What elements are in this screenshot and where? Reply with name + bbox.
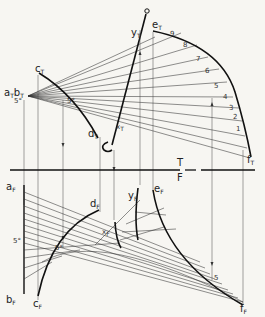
svg-text:1: 1 <box>236 125 240 133</box>
mark-5-front: 5 <box>214 274 218 282</box>
curve-ef-front <box>153 190 243 305</box>
label-f-front: fF <box>240 303 248 315</box>
svg-text:6: 6 <box>205 67 210 75</box>
angle-c-top: 5° <box>67 97 75 105</box>
envelope-curve-front <box>42 251 243 302</box>
svg-text:7: 7 <box>196 55 200 63</box>
point-top-marker <box>145 9 149 13</box>
front-view: aF 5° bF cF 5° dF xF yF eF 5 fF <box>6 181 248 315</box>
fold-line: T F <box>10 157 255 183</box>
fold-label-t: T <box>176 157 184 168</box>
label-y-top: yT <box>131 27 141 39</box>
label-e-top: eT <box>152 19 162 31</box>
angle-a-front: 5° <box>13 237 21 245</box>
label-x-front: xF <box>102 228 110 237</box>
svg-text:3: 3 <box>229 104 233 112</box>
svg-text:4: 4 <box>223 93 228 101</box>
curve-ef-top <box>153 31 251 157</box>
label-d-front: dF <box>90 198 100 210</box>
label-a-front: aF <box>6 181 16 193</box>
label-x-top: xT <box>116 123 124 132</box>
label-d-top: dT <box>88 128 98 140</box>
label-y-front: yF <box>128 190 138 202</box>
svg-text:2: 2 <box>233 113 237 121</box>
angle-a-top: 5° <box>14 97 22 105</box>
label-c-top: cT <box>35 63 45 75</box>
svg-text:5: 5 <box>214 82 218 90</box>
geometry-diagram: aTbT 5° cT 5° dT xT yT eT fT 1 2 3 4 5 6… <box>0 0 265 317</box>
top-view: aTbT 5° cT 5° dT xT yT eT fT 1 2 3 4 5 6… <box>4 9 255 166</box>
svg-text:8: 8 <box>183 41 187 49</box>
label-e-front: eF <box>154 183 164 195</box>
angle-c-front: 5° <box>55 244 63 252</box>
label-b-front: bF <box>6 294 16 306</box>
fan-lines-top <box>28 33 250 158</box>
fold-label-f: F <box>177 172 183 183</box>
curve-division-numbers: 1 2 3 4 5 6 7 8 9 <box>170 30 240 133</box>
svg-text:9: 9 <box>170 30 174 38</box>
label-c-front: cF <box>33 298 43 310</box>
hook-top <box>103 142 112 152</box>
